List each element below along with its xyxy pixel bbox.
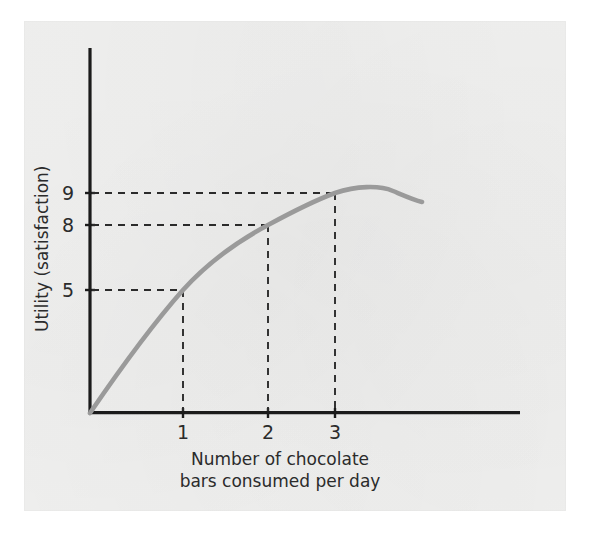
x-tick-label-2: 2	[248, 423, 288, 442]
y-axis-title: Utility (satisfaction)	[34, 165, 51, 332]
x-axis-title-line-1: Number of chocolate	[120, 448, 440, 470]
figure-root: 9 8 5 1 2 3 Utility (satisfaction) Numbe…	[0, 0, 591, 535]
x-axis-title-line-2: bars consumed per day	[120, 470, 440, 492]
x-tick-label-1: 1	[163, 423, 203, 442]
x-tick-label-3: 3	[315, 423, 355, 442]
x-axis-title: Number of chocolate bars consumed per da…	[120, 448, 440, 492]
utility-curve-path	[90, 187, 422, 413]
